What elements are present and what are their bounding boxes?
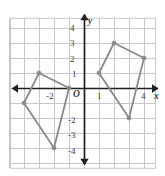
- right-quadrilateral: [99, 43, 144, 118]
- coordinate-plane-figure: 4 3 2 1 -2 -3 -4 -2 1 4 O x y: [0, 0, 165, 176]
- right-quadrilateral-vertex-0: [112, 41, 116, 45]
- left-quadrilateral: [24, 73, 69, 148]
- left-quadrilateral-vertex-2: [52, 146, 56, 150]
- grid-lines: [10, 18, 156, 168]
- right-quadrilateral-vertex-1: [142, 56, 146, 60]
- right-quadrilateral-vertex-3: [97, 71, 101, 75]
- right-quadrilateral-vertex-2: [127, 116, 131, 120]
- left-quadrilateral-vertex-0: [37, 71, 41, 75]
- grid-border: [11, 18, 156, 168]
- coordinate-plane-svg: [0, 0, 165, 176]
- left-quadrilateral-vertex-1: [67, 86, 71, 90]
- left-quadrilateral-vertex-3: [22, 101, 26, 105]
